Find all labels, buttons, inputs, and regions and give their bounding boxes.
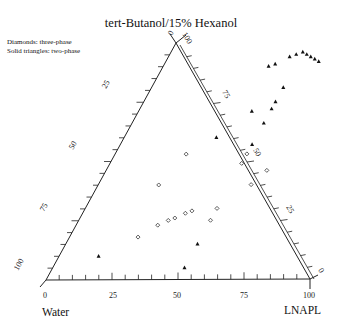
- two-phase-point: [273, 62, 277, 66]
- three-phase-point: [136, 235, 140, 239]
- svg-text:25: 25: [100, 79, 112, 90]
- three-phase-point: [245, 152, 249, 156]
- three-phase-point: [166, 218, 170, 222]
- ternary-plot: 0 25 50 75 100 0 100 25 50 75 100 75 50 …: [0, 0, 342, 335]
- two-phase-point: [313, 57, 317, 61]
- three-phase-point: [183, 211, 187, 215]
- svg-text:0: 0: [43, 291, 47, 300]
- three-phase-point: [184, 152, 188, 156]
- two-phase-point: [97, 254, 101, 258]
- three-phase-point: [249, 183, 253, 187]
- two-phase-point: [274, 100, 278, 104]
- three-phase-point: [190, 209, 194, 213]
- svg-text:100: 100: [303, 291, 315, 300]
- svg-text:50: 50: [67, 140, 79, 151]
- two-phase-point: [309, 54, 313, 58]
- two-phase-point: [281, 85, 285, 89]
- svg-text:100: 100: [180, 31, 194, 46]
- two-phase-point: [294, 52, 298, 56]
- two-phase-point: [214, 135, 218, 139]
- three-phase-point: [215, 206, 219, 210]
- two-phase-point: [305, 52, 309, 56]
- vertex-label-lnapl: LNAPL: [284, 304, 321, 316]
- two-phase-point: [250, 109, 254, 113]
- two-phase-point: [262, 121, 266, 125]
- three-phase-point: [265, 168, 269, 172]
- svg-text:100: 100: [12, 257, 26, 272]
- three-phase-point: [173, 216, 177, 220]
- svg-text:75: 75: [240, 291, 248, 300]
- three-phase-point: [157, 183, 161, 187]
- two-phase-point: [270, 107, 274, 111]
- svg-text:0: 0: [166, 29, 176, 37]
- two-phase-point: [250, 142, 254, 146]
- svg-text:75: 75: [38, 202, 50, 213]
- two-phase-point: [183, 265, 187, 269]
- two-phase-point: [317, 59, 321, 63]
- two-phase-point: [196, 242, 200, 246]
- svg-text:25: 25: [284, 204, 296, 215]
- two-phase-point: [267, 64, 271, 68]
- svg-text:0: 0: [316, 267, 326, 275]
- two-phase-point: [301, 50, 305, 54]
- svg-text:25: 25: [109, 291, 117, 300]
- svg-text:75: 75: [220, 89, 232, 100]
- three-phase-point: [156, 223, 160, 227]
- two-phase-point: [288, 55, 292, 59]
- three-phase-point: [209, 218, 213, 222]
- svg-text:50: 50: [251, 147, 263, 158]
- vertex-label-water: Water: [42, 306, 69, 318]
- svg-text:50: 50: [173, 291, 181, 300]
